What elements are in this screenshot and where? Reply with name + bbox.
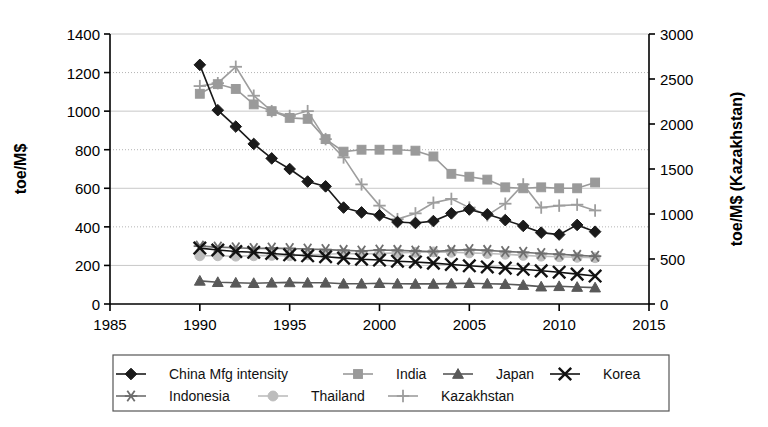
y-axis-right-tick-label: 3000 [660,26,693,43]
data-point [446,208,458,220]
data-point [194,59,206,71]
marker-circle [268,391,278,401]
y-axis-right-tick-label: 2000 [660,116,693,133]
data-point [571,198,583,210]
x-axis-tick-label: 1990 [183,316,216,333]
legend-label: India [396,366,427,382]
data-point [445,193,457,205]
marker-square [195,89,204,98]
legend-label: China Mfg intensity [169,366,288,382]
y-axis-left-tick-label: 1400 [67,26,100,43]
x-axis-tick-label: 1995 [273,316,306,333]
legend-marker [354,370,363,379]
marker-square [354,370,363,379]
marker-diamond [589,226,601,238]
data-point [589,226,601,238]
marker-diamond [302,176,314,188]
marker-square [357,145,366,154]
y-axis-right-title: toe/M$ (Kazakhstan) [728,92,745,247]
marker-diamond [571,219,583,231]
marker-square [321,135,330,144]
marker-diamond [499,214,511,226]
y-axis-right-tick-label: 500 [660,251,685,268]
data-point [195,89,204,98]
data-point [499,214,511,226]
data-point [428,215,440,227]
legend-label: Korea [603,366,641,382]
marker-square [339,147,348,156]
marker-square [303,114,312,123]
marker-diamond [446,208,458,220]
data-point [339,147,348,156]
chart-figure: 0200400600800100012001400050010001500200… [0,0,768,427]
y-axis-left-tick-label: 1000 [67,103,100,120]
y-axis-left-tick-label: 0 [92,296,100,313]
marker-diamond [284,163,296,175]
y-axis-left-tick-label: 800 [75,142,100,159]
marker-square [537,183,546,192]
marker-diamond [374,209,386,221]
x-axis-tick-label: 1985 [93,316,126,333]
data-point [357,145,366,154]
legend-label: Kazakhstan [441,388,514,404]
data-point [591,178,600,187]
marker-square [231,85,240,94]
x-axis-tick-label: 2015 [632,316,665,333]
data-point [589,204,601,216]
chart-canvas: 0200400600800100012001400050010001500200… [0,0,768,427]
y-axis-left-title: toe/M$ [12,144,29,195]
data-point [447,169,456,178]
data-point [375,145,384,154]
data-point [302,176,314,188]
marker-square [393,145,402,154]
data-point [537,183,546,192]
legend-marker [268,391,278,401]
marker-square [519,184,528,193]
data-point [213,80,222,89]
data-point [465,172,474,181]
data-point [284,163,296,175]
y-axis-right-tick-label: 1000 [660,206,693,223]
marker-square [429,152,438,161]
data-point [429,152,438,161]
marker-diamond [535,227,547,239]
data-point [573,184,582,193]
y-axis-right-tick-label: 2500 [660,71,693,88]
marker-square [483,175,492,184]
marker-square [501,183,510,192]
data-point [535,227,547,239]
data-point [285,113,294,122]
marker-square [591,178,600,187]
data-point [231,85,240,94]
legend-label: Thailand [311,388,365,404]
y-axis-left-tick-label: 1200 [67,65,100,82]
data-point [356,207,368,219]
marker-diamond [517,220,529,232]
marker-triangle [194,275,205,285]
legend: China Mfg intensityIndiaJapanKoreaIndone… [113,355,669,411]
data-point [427,197,439,209]
marker-diamond [553,229,565,241]
marker-diamond [194,59,206,71]
marker-diamond [428,215,440,227]
data-point [267,107,276,116]
marker-square [213,80,222,89]
legend-label: Indonesia [169,388,230,404]
data-point [411,146,420,155]
data-point [553,229,565,241]
marker-diamond [356,207,368,219]
marker-square [555,184,564,193]
marker-square [411,146,420,155]
marker-square [249,100,258,109]
x-axis-tick-label: 2005 [453,316,486,333]
data-point [483,175,492,184]
series-japan [194,275,600,291]
x-axis-tick-label: 2010 [542,316,575,333]
marker-square [375,145,384,154]
data-point [553,199,565,211]
data-point [482,209,494,221]
series-layer [194,59,602,292]
marker-diamond [482,209,494,221]
y-axis-right-tick-label: 0 [660,296,668,313]
data-point [321,135,330,144]
